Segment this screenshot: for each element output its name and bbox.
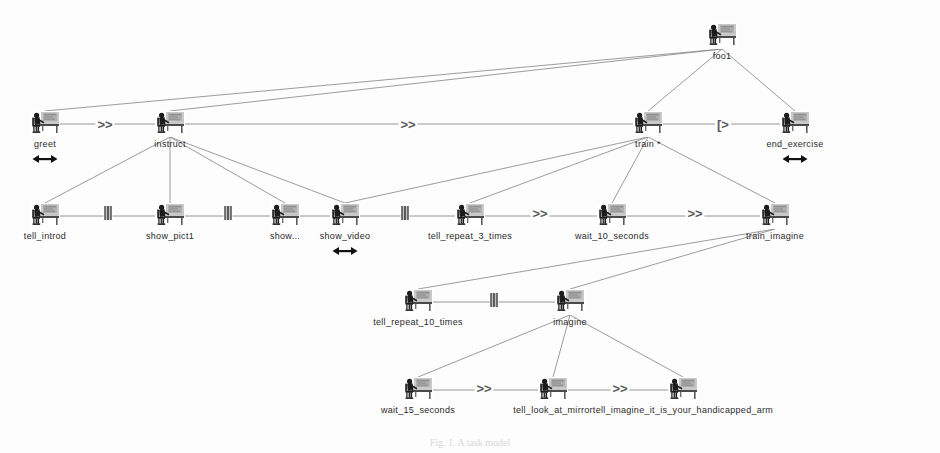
task-node-label: tell_look_at_mirror bbox=[513, 405, 593, 416]
task-node-label: greet bbox=[34, 139, 56, 150]
hierarchy-edge-imagine-to-tell_imagine_arm bbox=[570, 315, 683, 377]
task-node-label-text: tell_look_at_mirror bbox=[513, 405, 593, 415]
operator-concurrent[interactable] bbox=[224, 206, 233, 220]
hierarchy-edge-foo1-to-train bbox=[648, 49, 722, 111]
task-node-tell_imagine_arm[interactable]: tell_imagine_it_is_your_handicapped_arm bbox=[668, 377, 698, 403]
task-node-label-text: foo1 bbox=[713, 51, 732, 61]
task-node-label: instruct bbox=[154, 139, 185, 150]
task-node-label: wait_15_seconds bbox=[381, 405, 455, 416]
ctt-diagram-canvas: foo1greetinstructtrain*end_exercisetell_… bbox=[0, 0, 940, 453]
hierarchy-edge-foo1-to-end_exercise bbox=[722, 49, 795, 111]
figure-caption: Fig. 1. A task model bbox=[0, 437, 940, 448]
operator-concurrent[interactable] bbox=[104, 206, 113, 220]
task-node-label: tell_imagine_it_is_your_handicapped_arm bbox=[593, 405, 773, 416]
task-node-label-text: instruct bbox=[154, 139, 185, 149]
optional-double-arrow-icon bbox=[782, 152, 808, 166]
task-node-label-text: end_exercise bbox=[766, 139, 823, 149]
operator-concurrent[interactable] bbox=[490, 293, 499, 307]
task-node-label: show_video bbox=[320, 231, 371, 242]
task-node-show_pict1[interactable]: show_pict1 bbox=[155, 203, 185, 229]
task-node-label-text: tell_imagine_it_is_your_handicapped_arm bbox=[593, 405, 773, 415]
task-node-train_imagine[interactable]: train_imagine bbox=[760, 203, 790, 229]
task-node-tell_repeat_3_times[interactable]: tell_repeat_3_times bbox=[455, 203, 485, 229]
task-node-greet[interactable]: greet bbox=[30, 111, 60, 137]
operator-enabling[interactable]: >> bbox=[474, 382, 493, 395]
operator-enabling[interactable]: >> bbox=[610, 382, 629, 395]
operator-enabling[interactable]: >> bbox=[398, 118, 417, 131]
task-node-label-text: imagine bbox=[553, 317, 587, 327]
hierarchy-edge-instruct-to-show_video bbox=[170, 137, 345, 203]
task-node-label: wait_10_seconds bbox=[575, 231, 649, 242]
task-node-label: train* bbox=[635, 139, 661, 150]
task-node-label: foo1 bbox=[713, 51, 732, 62]
task-node-label-text: show... bbox=[270, 231, 300, 241]
task-node-label: show... bbox=[270, 231, 300, 242]
task-node-label: train_imagine bbox=[746, 231, 804, 242]
task-node-label-text: wait_10_seconds bbox=[575, 231, 649, 241]
hierarchy-edge-foo1-to-greet bbox=[45, 49, 722, 111]
optional-double-arrow-icon bbox=[332, 244, 358, 258]
task-node-tell_repeat_10_times[interactable]: tell_repeat_10_times bbox=[403, 289, 433, 315]
task-node-imagine[interactable]: imagine bbox=[555, 289, 585, 315]
task-node-train[interactable]: train* bbox=[633, 111, 663, 137]
task-node-label-text: show_pict1 bbox=[146, 231, 194, 241]
operator-enabling[interactable]: >> bbox=[685, 207, 704, 220]
hierarchy-edge-train-to-show_video bbox=[345, 137, 648, 203]
task-node-label-text: tell_repeat_10_times bbox=[373, 317, 463, 327]
task-node-show_dots[interactable]: show... bbox=[270, 203, 300, 229]
operator-enabling[interactable]: >> bbox=[530, 207, 549, 220]
task-node-label: imagine bbox=[553, 317, 587, 328]
task-node-label: show_pict1 bbox=[146, 231, 194, 242]
task-node-wait_10_seconds[interactable]: wait_10_seconds bbox=[597, 203, 627, 229]
hierarchy-edge-train-to-train_imagine bbox=[648, 137, 775, 203]
task-node-tell_look_at_mirror[interactable]: tell_look_at_mirror bbox=[538, 377, 568, 403]
task-node-label-text: tell_repeat_3_times bbox=[428, 231, 512, 241]
task-node-label-text: greet bbox=[34, 139, 56, 149]
task-node-label-text: tell_introd bbox=[24, 231, 66, 241]
task-node-show_video[interactable]: show_video bbox=[330, 203, 360, 229]
operator-disabling[interactable]: [> bbox=[715, 118, 731, 131]
task-node-end_exercise[interactable]: end_exercise bbox=[780, 111, 810, 137]
task-node-label-text: wait_15_seconds bbox=[381, 405, 455, 415]
operator-enabling[interactable]: >> bbox=[95, 118, 114, 131]
hierarchy-edge-train-to-tell_repeat_3_times bbox=[470, 137, 648, 203]
task-node-foo1[interactable]: foo1 bbox=[707, 23, 737, 49]
task-node-label: tell_repeat_3_times bbox=[428, 231, 512, 242]
hierarchy-edge-instruct-to-show_dots bbox=[170, 137, 285, 203]
task-node-label: tell_repeat_10_times bbox=[373, 317, 463, 328]
hierarchy-edge-instruct-to-tell_introd bbox=[45, 137, 170, 203]
task-node-label: tell_introd bbox=[24, 231, 66, 242]
task-node-tell_introd[interactable]: tell_introd bbox=[30, 203, 60, 229]
task-node-label-text: show_video bbox=[320, 231, 371, 241]
task-node-label: end_exercise bbox=[766, 139, 823, 150]
task-node-wait_15_seconds[interactable]: wait_15_seconds bbox=[403, 377, 433, 403]
operator-concurrent[interactable] bbox=[401, 206, 410, 220]
task-node-label-text: train_imagine bbox=[746, 231, 804, 241]
iteration-marker: * bbox=[657, 139, 661, 149]
task-node-instruct[interactable]: instruct bbox=[155, 111, 185, 137]
hierarchy-edge-foo1-to-instruct bbox=[170, 49, 722, 111]
optional-double-arrow-icon bbox=[32, 152, 58, 166]
task-node-label-text: train bbox=[635, 139, 654, 149]
